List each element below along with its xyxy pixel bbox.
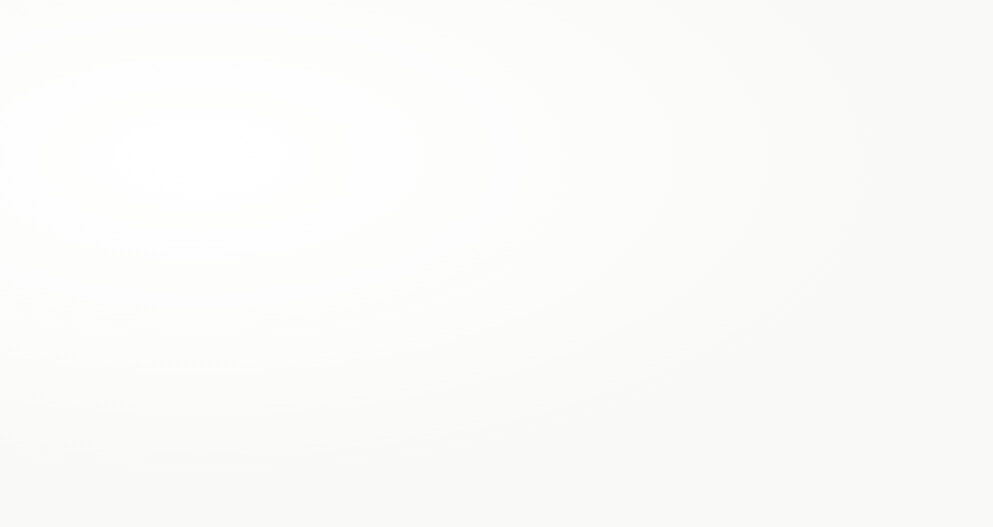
chart-plot-area (0, 0, 993, 527)
